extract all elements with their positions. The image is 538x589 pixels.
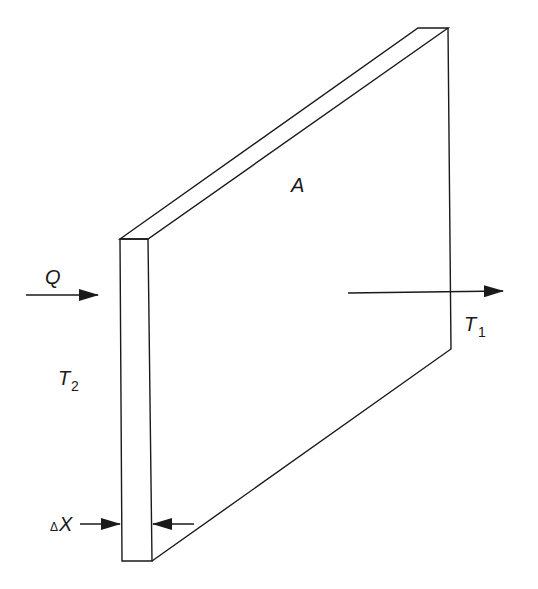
- svg-text:2: 2: [71, 378, 79, 394]
- slab-main-face: [152, 28, 451, 561]
- svg-text:X: X: [58, 513, 73, 535]
- slab-diagram: A Q T 1 T 2 Δ X: [0, 0, 538, 589]
- heat-flow-label: Q: [45, 266, 61, 288]
- temp-cold-label: T 1: [464, 313, 486, 340]
- svg-text:T: T: [464, 313, 478, 335]
- slab-top-face: [120, 28, 448, 239]
- heat-out-arrow: [348, 291, 503, 293]
- slab: [120, 28, 451, 561]
- temp-hot-label: T 2: [58, 367, 79, 394]
- area-label: A: [290, 174, 304, 196]
- svg-text:Δ: Δ: [50, 520, 58, 534]
- svg-text:T: T: [58, 367, 72, 389]
- slab-front-edge: [120, 239, 152, 561]
- thickness-label: Δ X: [50, 513, 73, 535]
- svg-text:1: 1: [478, 324, 486, 340]
